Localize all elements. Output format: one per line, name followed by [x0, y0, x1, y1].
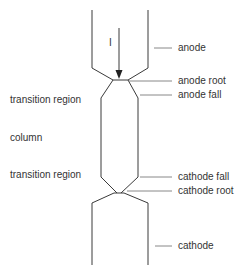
label-transition-region-top: transition region	[10, 94, 81, 105]
arc-column	[101, 80, 138, 193]
label-cathode-root: cathode root	[178, 185, 234, 196]
anode-electrode	[92, 10, 148, 80]
label-anode-fall: anode fall	[178, 89, 221, 100]
cathode-electrode	[92, 193, 148, 265]
label-cathode: cathode	[178, 240, 214, 251]
label-column: column	[10, 132, 42, 143]
label-anode-root: anode root	[178, 75, 226, 86]
current-arrow-icon	[116, 28, 123, 79]
current-label: I	[109, 37, 112, 48]
arc-diagram: I anode anode root anode fall cathode fa…	[0, 0, 250, 278]
label-anode: anode	[178, 42, 206, 53]
label-cathode-fall: cathode fall	[178, 171, 229, 182]
label-transition-region-bottom: transition region	[10, 169, 81, 180]
